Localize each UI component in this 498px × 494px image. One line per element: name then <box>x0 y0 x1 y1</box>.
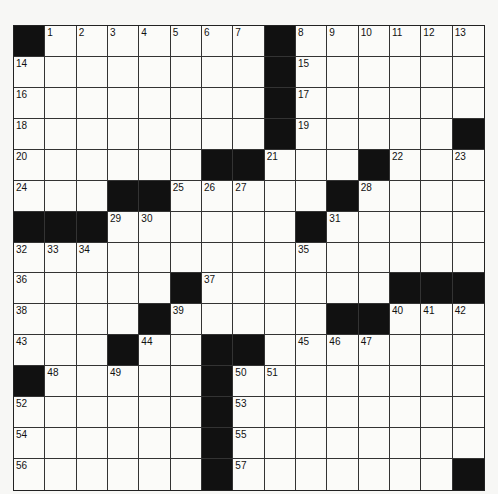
grid-cell[interactable] <box>421 150 452 181</box>
grid-cell[interactable]: 46 <box>327 335 358 366</box>
grid-cell[interactable] <box>359 119 390 150</box>
grid-cell[interactable] <box>296 459 327 490</box>
grid-cell[interactable] <box>421 366 452 397</box>
grid-cell[interactable]: 25 <box>171 181 202 212</box>
grid-cell[interactable]: 15 <box>296 57 327 88</box>
grid-cell[interactable] <box>202 304 233 335</box>
grid-cell[interactable]: 5 <box>171 26 202 57</box>
grid-cell[interactable]: 13 <box>453 26 484 57</box>
grid-cell[interactable] <box>453 181 484 212</box>
grid-cell[interactable] <box>45 397 76 428</box>
grid-cell[interactable] <box>108 57 139 88</box>
grid-cell[interactable] <box>390 88 421 119</box>
grid-cell[interactable]: 34 <box>77 243 108 274</box>
grid-cell[interactable]: 23 <box>453 150 484 181</box>
grid-cell[interactable] <box>108 119 139 150</box>
grid-cell[interactable] <box>233 212 264 243</box>
grid-cell[interactable]: 49 <box>108 366 139 397</box>
grid-cell[interactable]: 42 <box>453 304 484 335</box>
grid-cell[interactable] <box>45 150 76 181</box>
grid-cell[interactable]: 6 <box>202 26 233 57</box>
grid-cell[interactable] <box>45 335 76 366</box>
grid-cell[interactable]: 17 <box>296 88 327 119</box>
grid-cell[interactable] <box>453 428 484 459</box>
grid-cell[interactable] <box>265 397 296 428</box>
grid-cell[interactable] <box>77 459 108 490</box>
grid-cell[interactable] <box>139 243 170 274</box>
grid-cell[interactable]: 29 <box>108 212 139 243</box>
grid-cell[interactable] <box>453 88 484 119</box>
grid-cell[interactable]: 48 <box>45 366 76 397</box>
grid-cell[interactable]: 28 <box>359 181 390 212</box>
grid-cell[interactable] <box>421 243 452 274</box>
grid-cell[interactable] <box>139 428 170 459</box>
grid-cell[interactable]: 55 <box>233 428 264 459</box>
grid-cell[interactable] <box>265 459 296 490</box>
grid-cell[interactable]: 19 <box>296 119 327 150</box>
grid-cell[interactable] <box>359 428 390 459</box>
grid-cell[interactable] <box>296 366 327 397</box>
grid-cell[interactable] <box>359 243 390 274</box>
grid-cell[interactable]: 32 <box>14 243 45 274</box>
grid-cell[interactable] <box>359 366 390 397</box>
grid-cell[interactable]: 8 <box>296 26 327 57</box>
grid-cell[interactable] <box>108 304 139 335</box>
grid-cell[interactable] <box>390 57 421 88</box>
grid-cell[interactable] <box>139 273 170 304</box>
grid-cell[interactable]: 2 <box>77 26 108 57</box>
grid-cell[interactable] <box>327 397 358 428</box>
grid-cell[interactable]: 27 <box>233 181 264 212</box>
grid-cell[interactable]: 36 <box>14 273 45 304</box>
grid-cell[interactable] <box>77 428 108 459</box>
grid-cell[interactable] <box>108 428 139 459</box>
grid-cell[interactable]: 11 <box>390 26 421 57</box>
grid-cell[interactable] <box>453 57 484 88</box>
grid-cell[interactable]: 14 <box>14 57 45 88</box>
grid-cell[interactable] <box>359 212 390 243</box>
grid-cell[interactable] <box>233 304 264 335</box>
grid-cell[interactable]: 21 <box>265 150 296 181</box>
grid-cell[interactable] <box>171 119 202 150</box>
grid-cell[interactable] <box>421 335 452 366</box>
grid-cell[interactable] <box>296 273 327 304</box>
grid-cell[interactable]: 56 <box>14 459 45 490</box>
grid-cell[interactable] <box>45 273 76 304</box>
grid-cell[interactable]: 3 <box>108 26 139 57</box>
grid-cell[interactable] <box>233 57 264 88</box>
grid-cell[interactable] <box>233 88 264 119</box>
grid-cell[interactable] <box>202 243 233 274</box>
grid-cell[interactable]: 45 <box>296 335 327 366</box>
grid-cell[interactable] <box>77 366 108 397</box>
grid-cell[interactable] <box>171 397 202 428</box>
grid-cell[interactable] <box>202 57 233 88</box>
grid-cell[interactable] <box>139 366 170 397</box>
grid-cell[interactable]: 39 <box>171 304 202 335</box>
grid-cell[interactable] <box>202 119 233 150</box>
grid-cell[interactable] <box>327 243 358 274</box>
grid-cell[interactable] <box>233 273 264 304</box>
grid-cell[interactable] <box>359 397 390 428</box>
grid-cell[interactable] <box>421 181 452 212</box>
grid-cell[interactable] <box>233 243 264 274</box>
grid-cell[interactable]: 4 <box>139 26 170 57</box>
grid-cell[interactable]: 10 <box>359 26 390 57</box>
grid-cell[interactable]: 35 <box>296 243 327 274</box>
grid-cell[interactable]: 20 <box>14 150 45 181</box>
grid-cell[interactable]: 57 <box>233 459 264 490</box>
grid-cell[interactable] <box>171 428 202 459</box>
grid-cell[interactable]: 54 <box>14 428 45 459</box>
grid-cell[interactable] <box>421 88 452 119</box>
grid-cell[interactable] <box>296 428 327 459</box>
grid-cell[interactable] <box>453 335 484 366</box>
grid-cell[interactable] <box>45 88 76 119</box>
grid-cell[interactable] <box>265 428 296 459</box>
grid-cell[interactable]: 26 <box>202 181 233 212</box>
grid-cell[interactable] <box>265 335 296 366</box>
grid-cell[interactable]: 31 <box>327 212 358 243</box>
grid-cell[interactable] <box>171 88 202 119</box>
grid-cell[interactable] <box>453 397 484 428</box>
grid-cell[interactable] <box>45 459 76 490</box>
grid-cell[interactable] <box>77 304 108 335</box>
grid-cell[interactable] <box>171 212 202 243</box>
grid-cell[interactable]: 18 <box>14 119 45 150</box>
